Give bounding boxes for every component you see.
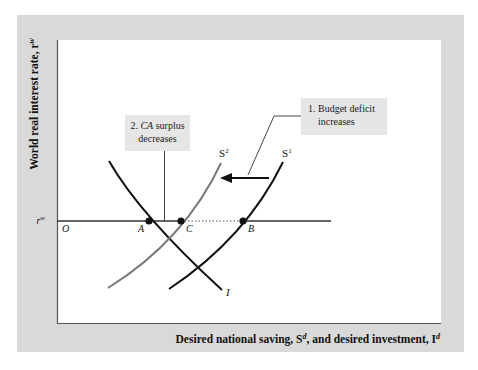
saving-investment-diagram: World real interest rate, rw Desired nat… — [0, 0, 478, 370]
point-a-label: A — [137, 223, 145, 234]
callout-budget-deficit-line2: increases — [318, 116, 355, 127]
point-c-label: C — [186, 223, 193, 234]
origin-label: O — [62, 223, 69, 234]
plot-area — [57, 40, 441, 324]
y-axis-label: World real interest rate, rw — [27, 37, 40, 169]
callout-ca-surplus-line2: decreases — [138, 133, 176, 144]
x-axis-label: Desired national saving, Sd, and desired… — [176, 332, 441, 346]
point-c — [177, 217, 184, 224]
callout-ca-surplus-line1: 2. CA surplus — [130, 120, 184, 131]
point-b-label: B — [248, 223, 254, 234]
point-b — [239, 217, 246, 224]
callout-budget-deficit-line1: 1. Budget deficit — [308, 103, 375, 114]
point-a — [145, 217, 152, 224]
